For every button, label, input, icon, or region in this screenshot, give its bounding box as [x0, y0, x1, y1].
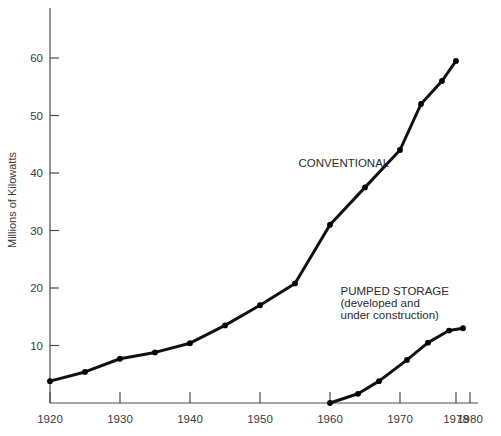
x-tick-label: 1960	[317, 413, 343, 425]
x-tick-label: 1930	[107, 413, 133, 425]
data-point	[152, 350, 158, 356]
pumped-storage-annotation-line: under construction)	[341, 309, 440, 321]
data-point	[187, 340, 193, 346]
conventional-series-label: CONVENTIONAL	[299, 157, 390, 169]
data-point	[82, 369, 88, 375]
data-point	[446, 328, 452, 334]
data-series-group	[47, 58, 466, 406]
pumped-storage-annotation-line: (developed and	[341, 297, 420, 309]
data-point	[222, 322, 228, 328]
data-point	[47, 378, 53, 384]
pumped-storage-annotation-line: PUMPED STORAGE	[341, 285, 450, 297]
y-axis-ticks: 102030405060	[30, 52, 59, 352]
data-point	[355, 391, 361, 397]
data-point	[453, 58, 459, 64]
data-point	[257, 302, 263, 308]
series-line-2	[330, 328, 463, 403]
series-line-1	[50, 61, 456, 381]
data-point	[292, 281, 298, 287]
data-point	[362, 184, 368, 190]
data-point	[376, 378, 382, 384]
x-tick-label: 1980	[457, 413, 483, 425]
x-tick-label: 1920	[37, 413, 63, 425]
data-point	[439, 78, 445, 84]
hydroelectric-capacity-line-chart: 102030405060 192019301940195019601970197…	[0, 0, 501, 436]
data-point	[460, 325, 466, 331]
x-axis-ticks: 19201930194019501960197019781980	[37, 392, 483, 425]
data-point	[327, 400, 333, 406]
axes-group	[50, 8, 478, 403]
y-tick-label: 20	[30, 282, 43, 294]
x-tick-label: 1940	[177, 413, 203, 425]
y-axis-title: Millions of Kilowatts	[6, 152, 18, 248]
data-point	[404, 357, 410, 363]
y-tick-label: 40	[30, 167, 43, 179]
data-point	[117, 356, 123, 362]
y-tick-label: 50	[30, 110, 43, 122]
x-tick-label: 1950	[247, 413, 273, 425]
y-tick-label: 10	[30, 340, 43, 352]
x-tick-label: 1970	[387, 413, 413, 425]
y-tick-label: 60	[30, 52, 43, 64]
y-tick-label: 30	[30, 225, 43, 237]
data-point	[327, 222, 333, 228]
data-point	[397, 147, 403, 153]
chart-container: 102030405060 192019301940195019601970197…	[0, 0, 501, 436]
data-point	[418, 101, 424, 107]
data-point	[425, 340, 431, 346]
